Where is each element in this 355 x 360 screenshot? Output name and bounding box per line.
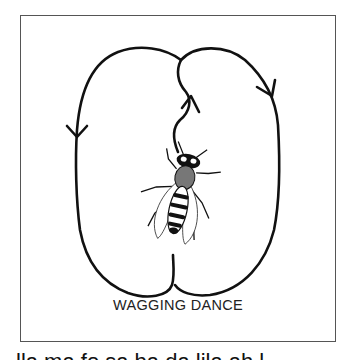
waggle-run-path	[174, 60, 189, 152]
figure-caption: WAGGING DANCE	[20, 297, 336, 313]
left-loop-path	[76, 48, 181, 297]
cutoff-body-text: lla ma fo sa ba da lila ah l	[16, 347, 355, 360]
